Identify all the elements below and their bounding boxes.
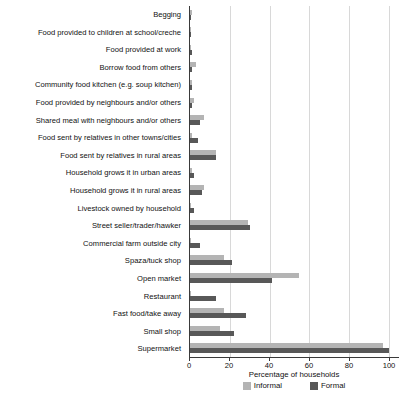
category-label: Commercial farm outside city [0,235,185,253]
category-label: Supermarket [0,340,185,358]
legend-label: Formal [321,381,345,390]
bar-formal [190,173,194,178]
bar-group [190,181,399,199]
legend-item-formal: Formal [310,381,345,390]
x-tick-label: 0 [187,361,191,370]
bar-formal [190,313,246,318]
bar-group [190,94,399,112]
category-label: Begging [0,6,185,24]
category-label: Food provided at work [0,41,185,59]
category-label: Household grows it in rural areas [0,182,185,200]
bar-formal [190,331,234,336]
chart-legend: InformalFormal [189,381,399,390]
bar-group [190,252,399,270]
bar-formal [190,15,191,20]
bar-formal [190,190,202,195]
bar-group [190,304,399,322]
category-label: Street seller/trader/hawker [0,217,185,235]
bar-formal [190,138,198,143]
bar-group [190,234,399,252]
bar-group [190,76,399,94]
category-label: Food sent by relatives in rural areas [0,147,185,165]
category-axis-labels: BeggingFood provided to children at scho… [0,6,185,358]
legend-swatch-icon [243,382,251,390]
category-label: Household grows it in urban areas [0,164,185,182]
bar-formal [190,225,250,230]
bar-formal [190,120,200,125]
bar-group [190,217,399,235]
bar-formal [190,296,216,301]
category-label: Spaza/tuck shop [0,252,185,270]
category-label: Food provided by neighbours and/or other… [0,94,185,112]
category-label: Small shop [0,323,185,341]
legend-label: Informal [254,381,282,390]
legend-item-informal: Informal [243,381,282,390]
category-label: Food provided to children at school/crec… [0,24,185,42]
bar-group [190,164,399,182]
x-tick-label: 40 [265,361,273,370]
bar-formal [190,103,192,108]
bar-chart: BeggingFood provided to children at scho… [0,0,409,394]
bar-group [190,6,399,24]
bar-group [190,269,399,287]
bars-layer [190,6,399,357]
legend-swatch-icon [310,382,318,390]
bar-formal [190,278,272,283]
bar-formal [190,85,192,90]
category-label: Community food kitchen (e.g. soup kitche… [0,76,185,94]
x-axis-title: Percentage of households [189,370,399,379]
bar-formal [190,50,192,55]
bar-formal [190,32,191,37]
bar-group [190,287,399,305]
bar-formal [190,243,200,248]
bar-formal [190,260,232,265]
category-label: Open market [0,270,185,288]
bar-group [190,111,399,129]
bar-group [190,59,399,77]
x-tick-label: 60 [305,361,313,370]
category-label: Food sent by relatives in other towns/ci… [0,129,185,147]
x-tick-label: 100 [383,361,396,370]
category-label: Restaurant [0,288,185,306]
bar-group [190,146,399,164]
bar-formal [190,67,192,72]
category-label: Livestock owned by household [0,200,185,218]
bar-group [190,339,399,357]
x-tick-label: 20 [225,361,233,370]
bar-group [190,41,399,59]
x-tick-label: 80 [345,361,353,370]
bar-formal [190,348,389,353]
bar-group [190,322,399,340]
bar-formal [190,208,194,213]
bar-group [190,199,399,217]
category-label: Fast food/take away [0,305,185,323]
category-label: Borrow food from others [0,59,185,77]
category-label: Shared meal with neighbours and/or other… [0,112,185,130]
bar-group [190,129,399,147]
bar-formal [190,155,216,160]
bar-group [190,24,399,42]
plot-area [189,6,399,358]
